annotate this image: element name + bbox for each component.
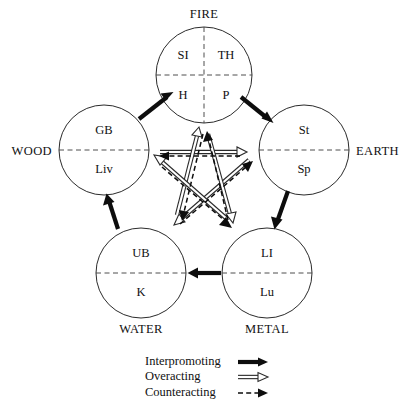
element-node-metal[interactable]: LI Lu METAL [222,228,312,336]
legend-item-overacting: Overacting [145,369,268,383]
organ-label-gb: GB [95,123,112,137]
organ-label-p: P [223,88,230,102]
interpromoting-arrow-earth-to-metal [271,191,288,230]
organ-label-li: LI [261,246,273,260]
legend-label-counteracting: Counteracting [145,385,217,399]
organ-label-liv: Liv [95,162,113,176]
element-label-wood: WOOD [12,144,52,158]
element-node-wood[interactable]: GB Liv WOOD [12,105,149,195]
legend-icon-solid-arrow [238,358,268,367]
organ-label-th: TH [218,48,235,62]
legend-icon-dashed-arrow [238,389,268,398]
wuxing-diagram: SI TH H P FIRE GB Liv WOOD St Sp EARTH U… [0,0,408,413]
element-label-fire: FIRE [190,7,219,21]
element-node-earth[interactable]: St Sp EARTH [259,105,399,195]
interpromoting-arrow-water-to-wood [103,194,118,230]
organ-label-lu: Lu [260,285,275,299]
element-node-water[interactable]: UB K WATER [96,228,186,336]
element-label-earth: EARTH [356,144,399,158]
interpromoting-arrow-metal-to-water [188,268,222,279]
organ-label-ub: UB [132,246,149,260]
organ-label-st: St [299,123,310,137]
organ-label-sp: Sp [297,162,310,176]
legend-item-counteracting: Counteracting [145,385,268,399]
interpromoting-arrow-fire-to-earth [241,97,274,123]
fire-circle [156,27,252,123]
legend-item-interpromoting: Interpromoting [145,354,268,368]
legend-label-interpromoting: Interpromoting [145,354,221,368]
organ-label-k: K [136,285,145,299]
legend: Interpromoting Overacting Counteracting [145,354,268,399]
legend-icon-hollow-double-arrow [238,373,268,382]
element-label-water: WATER [119,322,163,336]
element-node-fire[interactable]: SI TH H P FIRE [156,7,252,123]
organ-label-si: SI [177,48,188,62]
organ-label-h: H [178,88,187,102]
legend-label-overacting: Overacting [145,369,201,383]
element-label-metal: METAL [245,322,289,336]
wuxing-canvas: SI TH H P FIRE GB Liv WOOD St Sp EARTH U… [0,0,408,413]
